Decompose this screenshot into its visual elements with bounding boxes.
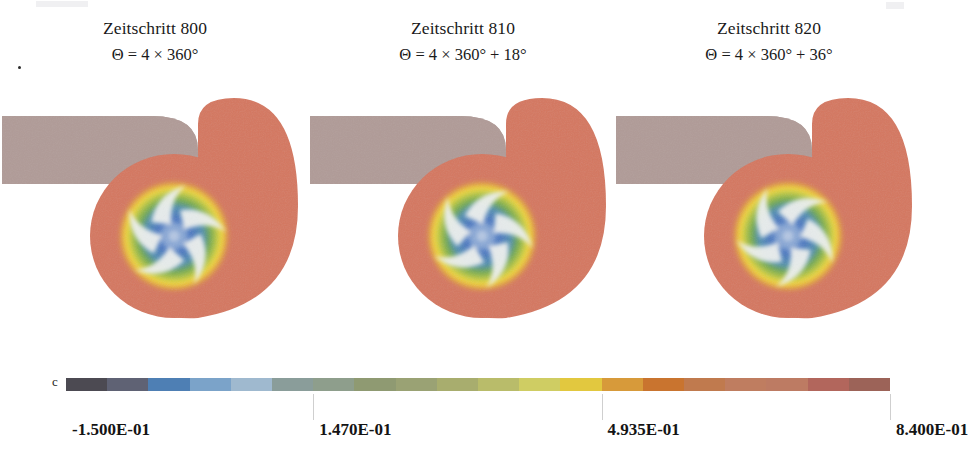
- colorbar-band: [602, 378, 643, 391]
- colorbar-band: [190, 378, 231, 391]
- panel-angle-formula: Θ = 4 × 360° + 36°: [616, 43, 922, 67]
- colorbar-band: [437, 378, 478, 391]
- scan-speck: [18, 66, 21, 69]
- pump-visualization: [310, 88, 616, 350]
- colorbar-band: [849, 378, 890, 391]
- timestep-panel: Zeitschritt 820 Θ = 4 × 360° + 36°: [616, 0, 922, 360]
- colorbar-band: [478, 378, 519, 391]
- colorbar-tick-label: 1.470E-01: [319, 420, 391, 440]
- colorbar-band: [148, 378, 189, 391]
- panel-title: Zeitschritt 810: [310, 16, 616, 41]
- panel-angle-formula: Θ = 4 × 360°: [2, 43, 308, 67]
- colorbar-band: [643, 378, 684, 391]
- colorbar-band: [272, 378, 313, 391]
- panel-title: Zeitschritt 820: [616, 16, 922, 41]
- colorbar-band: [560, 378, 601, 391]
- colorbar-tick: [602, 394, 603, 420]
- colorbar-variable-label: c: [52, 374, 58, 390]
- colorbar-band: [354, 378, 395, 391]
- colorbar-strip: [66, 378, 890, 391]
- colorbar-band: [684, 378, 725, 391]
- colorbar-band: [808, 378, 849, 391]
- colorbar-tick-label: 4.935E-01: [608, 420, 680, 440]
- colorbar-band: [66, 378, 107, 391]
- colorbar-band: [766, 378, 807, 391]
- panel-caption: Zeitschritt 800 Θ = 4 × 360°: [2, 16, 308, 67]
- colorbar-band: [519, 378, 560, 391]
- pump-visualization: [616, 88, 922, 350]
- panel-title: Zeitschritt 800: [2, 16, 308, 41]
- colorbar-tick: [313, 394, 314, 420]
- colorbar-band: [313, 378, 354, 391]
- colorbar-tick-label: 8.400E-01: [896, 420, 968, 440]
- colorbar-tick-label: -1.500E-01: [72, 420, 150, 440]
- colorbar-band: [231, 378, 272, 391]
- timestep-panel: Zeitschritt 800 Θ = 4 × 360°: [2, 0, 308, 360]
- colorbar-band: [107, 378, 148, 391]
- panel-caption: Zeitschritt 820 Θ = 4 × 360° + 36°: [616, 16, 922, 67]
- pump-diagram-svg: [616, 88, 922, 350]
- colorbar-band: [725, 378, 766, 391]
- panel-caption: Zeitschritt 810 Θ = 4 × 360° + 18°: [310, 16, 616, 67]
- colorbar-tick: [890, 394, 891, 420]
- pump-diagram-svg: [310, 88, 616, 350]
- pump-diagram-svg: [2, 88, 308, 350]
- panel-row: Zeitschritt 800 Θ = 4 × 360°: [0, 0, 919, 360]
- colorbar-band: [396, 378, 437, 391]
- pump-visualization: [2, 88, 308, 350]
- timestep-panel: Zeitschritt 810 Θ = 4 × 360° + 18°: [310, 0, 616, 360]
- panel-angle-formula: Θ = 4 × 360° + 18°: [310, 43, 616, 67]
- colorbar: c -1.500E-011.470E-014.935E-018.400E-01: [0, 368, 919, 469]
